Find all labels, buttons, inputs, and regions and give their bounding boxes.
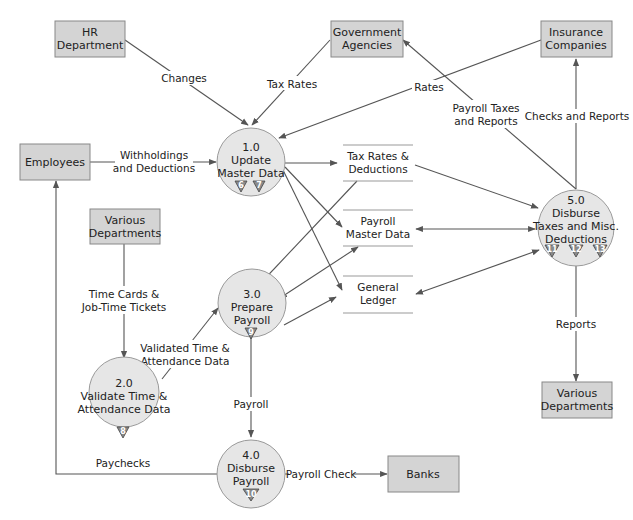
process-4-disburse-payroll: 4.0 Disburse Payroll 10 (217, 440, 285, 508)
svg-text:Government: Government (333, 26, 402, 39)
svg-text:3.0: 3.0 (243, 288, 261, 301)
svg-text:8: 8 (120, 427, 126, 436)
flow-label-payroll-taxes-2: and Reports (454, 115, 517, 127)
svg-text:Payroll: Payroll (233, 475, 270, 488)
svg-text:Various: Various (557, 387, 598, 400)
svg-text:Department: Department (57, 39, 124, 52)
svg-text:Departments: Departments (541, 400, 614, 413)
process-2-validate-time-attendance: 2.0 Validate Time & Attendance Data 8 (78, 357, 171, 438)
flow-label-validated-1: Validated Time & (140, 342, 230, 354)
svg-text:2.0: 2.0 (115, 377, 133, 390)
flow-label-changes: Changes (161, 72, 207, 84)
process-5-disburse-taxes: 5.0 Disburse Taxes and Misc. Deductions … (532, 190, 619, 266)
svg-text:HR: HR (82, 26, 98, 39)
svg-text:12: 12 (570, 245, 581, 254)
entity-various-departments-1: Various Departments (89, 209, 162, 244)
svg-text:General: General (357, 281, 398, 293)
svg-text:Taxes and Misc.: Taxes and Misc. (532, 220, 619, 233)
svg-text:7: 7 (256, 181, 262, 190)
svg-text:Banks: Banks (406, 468, 440, 481)
entity-government-agencies: Government Agencies (331, 21, 403, 57)
svg-text:9: 9 (248, 328, 254, 337)
svg-text:Agencies: Agencies (342, 39, 392, 52)
svg-text:Ledger: Ledger (360, 294, 397, 306)
data-store-tax-rates-deductions: Tax Rates & Deductions (343, 145, 413, 181)
svg-text:Companies: Companies (545, 39, 607, 52)
svg-text:13: 13 (594, 245, 605, 254)
flow-label-payroll: Payroll (234, 398, 269, 410)
marker-triangle-icon: 8 (117, 427, 129, 438)
svg-text:Payroll: Payroll (361, 215, 396, 227)
svg-text:Deductions: Deductions (348, 163, 407, 175)
flow-label-payroll-taxes-1: Payroll Taxes (452, 102, 519, 114)
svg-text:Attendance Data: Attendance Data (78, 403, 171, 416)
flow-label-time-cards-1: Time Cards & (88, 288, 160, 300)
process-1-update-master-data: 1.0 Update Master Data 6 7 (217, 128, 285, 196)
data-store-general-ledger: General Ledger (343, 276, 413, 313)
flow-label-validated-2: Attendance Data (141, 355, 230, 367)
svg-text:Update: Update (231, 154, 271, 167)
svg-text:4.0: 4.0 (242, 449, 260, 462)
svg-text:11: 11 (546, 245, 558, 254)
svg-text:10: 10 (245, 490, 257, 499)
svg-text:Tax Rates &: Tax Rates & (346, 150, 409, 162)
entity-hr-department: HR Department (55, 21, 125, 57)
data-flow-diagram: Changes Tax Rates Rates Withholdings and… (0, 0, 633, 520)
flow-label-withholdings-1: Withholdings (120, 149, 188, 161)
entity-various-departments-2: Various Departments (541, 382, 614, 418)
flow-label-paychecks: Paychecks (96, 457, 151, 469)
svg-text:Disburse: Disburse (227, 462, 275, 475)
process-3-prepare-payroll: 3.0 Prepare Payroll 9 (218, 269, 286, 339)
svg-text:Various: Various (105, 214, 146, 227)
svg-text:Departments: Departments (89, 227, 162, 240)
svg-text:Prepare: Prepare (231, 301, 273, 314)
svg-text:Disburse: Disburse (552, 207, 600, 220)
svg-text:Master Data: Master Data (217, 167, 284, 180)
flow-label-checks-reports: Checks and Reports (525, 110, 629, 122)
flow-label-time-cards-2: Job-Time Tickets (81, 301, 167, 313)
flow-label-rates: Rates (414, 81, 444, 93)
flow-label-withholdings-2: and Deductions (113, 162, 195, 174)
flow-label-reports: Reports (556, 318, 596, 330)
svg-text:Master Data: Master Data (346, 228, 410, 240)
svg-text:6: 6 (238, 181, 244, 190)
svg-text:Employees: Employees (25, 156, 85, 169)
entity-employees: Employees (20, 144, 90, 180)
flow-label-payroll-check: Payroll Check (286, 468, 357, 480)
entity-insurance-companies: Insurance Companies (541, 21, 612, 57)
svg-text:Payroll: Payroll (234, 314, 271, 327)
entity-banks: Banks (388, 456, 459, 492)
svg-text:Insurance: Insurance (549, 26, 603, 39)
data-store-payroll-master-data: Payroll Master Data (343, 210, 413, 246)
svg-text:5.0: 5.0 (567, 194, 585, 207)
svg-text:1.0: 1.0 (242, 141, 260, 154)
svg-text:Validate Time &: Validate Time & (81, 390, 168, 403)
flow-label-tax-rates: Tax Rates (266, 78, 317, 90)
